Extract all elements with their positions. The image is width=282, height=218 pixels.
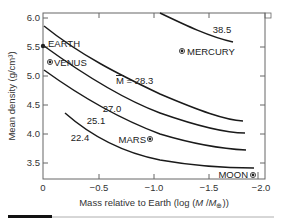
corner-mark — [265, 13, 271, 18]
mercury-marker — [181, 50, 184, 53]
footer-bar — [8, 215, 52, 218]
x-axis-title: Mass relative to Earth (log (M /M⊕)) — [79, 197, 229, 209]
y-tick-label: 6.0 — [27, 12, 40, 23]
moon-label: MOON — [218, 169, 248, 180]
venus-label: VENUS — [54, 57, 87, 68]
density-mass-chart: 6.0 5.5 5.0 4.5 4.0 3.5 0 −0.5 −1.0 −1.5… — [0, 0, 282, 218]
earth-label: EARTH — [48, 38, 80, 49]
y-axis-title: Mean density (g/cm³) — [6, 51, 17, 140]
y-tick-label: 3.5 — [27, 157, 40, 168]
curve-label-22-4: 22.4 — [71, 132, 90, 143]
mars-label: MARS — [119, 134, 146, 145]
earth-marker — [41, 44, 45, 48]
curve-label-28-3: M = 28.3 — [116, 75, 153, 86]
venus-marker — [49, 61, 52, 64]
x-tick-label: −1.5 — [200, 182, 219, 193]
x-tick-label: −1.0 — [145, 182, 164, 193]
mars-marker — [149, 138, 152, 141]
x-tick-label: −2.0 — [252, 182, 271, 193]
y-tick-label: 5.5 — [27, 41, 40, 52]
moon-marker — [252, 174, 255, 177]
curve-label-38-5: 38.5 — [213, 24, 232, 35]
y-tick-label: 4.5 — [27, 99, 40, 110]
x-tick-label: 0 — [40, 182, 45, 193]
density-curves — [44, 13, 254, 168]
curve-label-25-1: 25.1 — [87, 115, 106, 126]
mercury-label: MERCURY — [187, 46, 236, 57]
x-tick-label: −0.5 — [90, 182, 109, 193]
y-tick-label: 5.0 — [27, 70, 40, 81]
y-tick-label: 4.0 — [27, 128, 40, 139]
curve-label-27-0: 27.0 — [103, 103, 122, 114]
